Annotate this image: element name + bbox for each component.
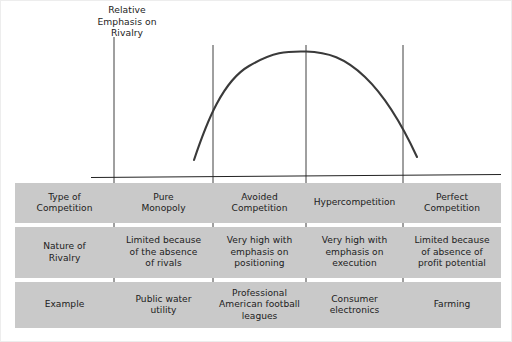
cell-rivalry-avoided: Very high with emphasis on positioning [213,227,306,278]
rivalry-curve [194,51,417,160]
competition-spectrum-figure: Relative Emphasis on Rivalry Type of Com… [0,0,512,342]
table-row: Nature of Rivalry Limited because of the… [15,227,501,278]
cell-example-label: Example [15,282,114,328]
cell-pure-monopoly: Pure Monopoly [114,183,213,223]
cell-perfect-competition: Perfect Competition [403,183,501,223]
competition-table: Type of Competition Pure Monopoly Avoide… [15,183,501,328]
cell-example-perfect: Farming [403,282,501,328]
cell-example-hypercompetition: Consumer electronics [306,282,403,328]
cell-avoided-competition: Avoided Competition [213,183,306,223]
x-axis-baseline [91,175,501,178]
cell-hypercompetition: Hypercompetition [306,183,403,223]
cell-rivalry-hypercompetition: Very high with emphasis on execution [306,227,403,278]
y-axis-label: Relative Emphasis on Rivalry [79,4,175,39]
cell-rivalry-pure-monopoly: Limited because of the absence of rivals [114,227,213,278]
cell-type-of-competition-label: Type of Competition [15,183,114,223]
cell-example-pure-monopoly: Public water utility [114,282,213,328]
table-row: Example Public water utility Professiona… [15,282,501,328]
chart-region: Relative Emphasis on Rivalry [1,1,512,181]
cell-rivalry-perfect: Limited because of absence of profit pot… [403,227,501,278]
cell-example-avoided: Professional American football leagues [213,282,306,328]
cell-nature-of-rivalry-label: Nature of Rivalry [15,227,114,278]
table-row: Type of Competition Pure Monopoly Avoide… [15,183,501,223]
